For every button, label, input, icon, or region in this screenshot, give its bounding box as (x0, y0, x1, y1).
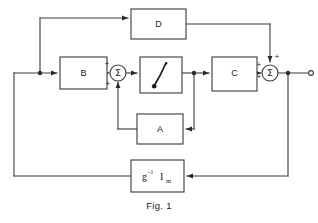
block-c-label: C (231, 68, 238, 78)
block-c[interactable]: C (212, 57, 257, 91)
sum-left-sigma: Σ (115, 67, 121, 78)
summing-junction-right[interactable]: Σ + + + (257, 52, 280, 81)
gain-superscript: -1 (148, 168, 153, 175)
block-d[interactable]: D (131, 9, 186, 39)
sum-right-sign-upper-left: + (257, 60, 262, 69)
wire-d-to-sum-right (186, 24, 270, 62)
sum-left-sign-bottom: + (106, 79, 111, 88)
sum-right-sign-top: + (275, 52, 280, 61)
block-gain-inverse[interactable]: g -1 I m (131, 160, 184, 192)
junction-dot-output (286, 71, 290, 75)
figure-container: D B C A g -1 I m (0, 0, 318, 223)
junction-dot-integrator-output (192, 71, 196, 75)
block-d-label: D (155, 19, 162, 29)
block-a-label: A (157, 124, 163, 134)
block-integrator[interactable] (140, 57, 182, 93)
block-a[interactable]: A (137, 114, 183, 144)
gain-subscript: m (166, 177, 171, 184)
sum-right-sign-lower-left: + (257, 72, 262, 81)
block-b-label: B (80, 68, 86, 78)
block-b[interactable]: B (60, 57, 107, 89)
sum-left-sign-top: + (105, 59, 110, 68)
junction-dot-input (38, 71, 42, 75)
output-terminal-icon[interactable] (309, 71, 314, 76)
block-diagram: D B C A g -1 I m (0, 0, 318, 223)
wire-a-to-sum-left (118, 82, 137, 129)
gain-base: g (142, 171, 147, 182)
gain-symbol: I (160, 171, 163, 182)
sum-right-sigma: Σ (267, 67, 273, 78)
figure-caption: Fig. 1 (0, 200, 318, 211)
wire-integrator-tap-to-a (186, 73, 194, 129)
